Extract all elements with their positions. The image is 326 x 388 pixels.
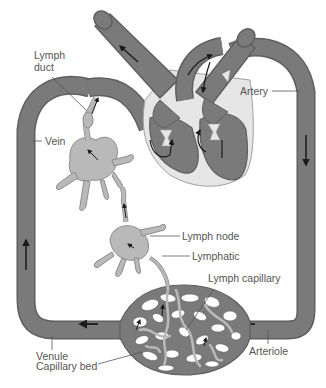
label-lymph-capillary: Lymph capillary — [208, 272, 281, 284]
label-lymph-node: Lymph node — [182, 230, 239, 242]
circulatory-lymphatic-diagram: Lymph duct Vein Artery Lymph node Lympha… — [0, 0, 326, 388]
label-capillary-bed: Capillary bed — [36, 360, 97, 372]
label-lymphatic: Lymphatic — [192, 250, 239, 262]
label-vein: Vein — [45, 135, 65, 147]
label-lymph-duct: Lymph duct — [34, 49, 65, 73]
label-lymph-duct-line1: Lymph — [34, 49, 65, 61]
label-artery: Artery — [240, 85, 268, 97]
label-arteriole: Arteriole — [249, 345, 288, 357]
capillary-bed — [120, 285, 250, 375]
label-lymph-duct-line2: duct — [34, 61, 65, 73]
lymph-node-upper — [69, 137, 117, 181]
